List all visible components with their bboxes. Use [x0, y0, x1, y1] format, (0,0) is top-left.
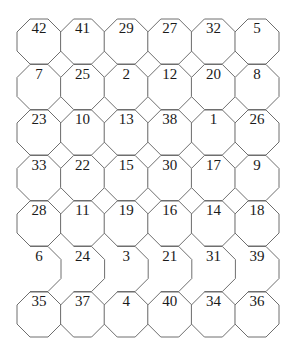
octagon-cell: 39	[248, 247, 279, 292]
octagon-cell: 41	[61, 19, 105, 64]
octagon-cell: 14	[191, 201, 235, 246]
octagon-cell: 29	[104, 19, 148, 64]
octagon-cell: 27	[148, 19, 192, 64]
octagon-cell: 3	[117, 247, 148, 292]
cell-number: 3	[122, 248, 130, 264]
octagon-cell: 4	[104, 292, 148, 337]
octagon-cell: 20	[191, 65, 235, 110]
octagon-cell: 21	[161, 247, 192, 292]
cell-number: 8	[253, 66, 261, 82]
octagon-cell: 10	[61, 110, 105, 155]
octagon-cell: 33	[17, 156, 61, 201]
octagon-cell: 1	[191, 110, 235, 155]
octagon-grid: 4241292732572521220823101338126332215301…	[0, 0, 297, 362]
octagon-cell: 34	[191, 292, 235, 337]
cell-number: 12	[162, 66, 177, 82]
octagon-cell: 31	[204, 247, 235, 292]
octagon-cell: 8	[235, 65, 279, 110]
octagon-cell: 2	[104, 65, 148, 110]
octagon-cell: 12	[148, 65, 192, 110]
cell-number: 5	[253, 20, 261, 36]
cell-number: 6	[35, 248, 43, 264]
cell-number: 22	[75, 157, 90, 173]
octagon-cell: 42	[17, 19, 61, 64]
cell-number: 34	[206, 293, 222, 309]
cell-number: 14	[206, 202, 222, 218]
cell-number: 4	[122, 293, 130, 309]
octagon-cell: 36	[235, 292, 279, 337]
cell-number: 30	[162, 157, 177, 173]
cell-number: 21	[162, 248, 177, 264]
cell-number: 40	[162, 293, 177, 309]
octagon-cell: 37	[61, 292, 105, 337]
octagon-cell: 25	[61, 65, 105, 110]
octagon-cell: 28	[17, 201, 61, 246]
octagon-cell: 9	[235, 156, 279, 201]
octagon-cell: 16	[148, 201, 192, 246]
cell-number: 42	[32, 20, 47, 36]
octagon-cell: 17	[191, 156, 235, 201]
octagon-cell: 22	[61, 156, 105, 201]
cell-number: 28	[32, 202, 47, 218]
cell-number: 41	[75, 20, 90, 36]
octagon-cell: 7	[17, 65, 61, 110]
cell-number: 15	[119, 157, 134, 173]
cell-number: 18	[250, 202, 265, 218]
cell-number: 9	[253, 157, 261, 173]
cell-number: 16	[162, 202, 178, 218]
cell-number: 26	[250, 111, 266, 127]
cell-number: 35	[32, 293, 47, 309]
cell-number: 39	[250, 248, 265, 264]
octagon-cell: 15	[104, 156, 148, 201]
cell-number: 19	[119, 202, 134, 218]
cell-number: 7	[35, 66, 43, 82]
octagon-cell: 30	[148, 156, 192, 201]
octagon-cell: 40	[148, 292, 192, 337]
octagon-cell: 35	[17, 292, 61, 337]
octagon-grid-canvas: 4241292732572521220823101338126332215301…	[0, 0, 297, 362]
octagon-cell: 5	[235, 19, 279, 64]
cell-number: 33	[32, 157, 47, 173]
cell-number: 37	[75, 293, 91, 309]
cell-number: 23	[32, 111, 47, 127]
cell-number: 36	[250, 293, 266, 309]
octagon-cell: 38	[148, 110, 192, 155]
cell-number: 25	[75, 66, 90, 82]
octagon-cell: 13	[104, 110, 148, 155]
cell-number: 32	[206, 20, 221, 36]
octagon-cell: 19	[104, 201, 148, 246]
cell-number: 31	[206, 248, 221, 264]
cell-number: 24	[75, 248, 91, 264]
cell-number: 20	[206, 66, 221, 82]
octagon-cell: 32	[191, 19, 235, 64]
octagon-cell: 18	[235, 201, 279, 246]
cell-number: 17	[206, 157, 222, 173]
cell-number: 29	[119, 20, 134, 36]
octagon-cell: 6	[30, 247, 61, 292]
cell-number: 10	[75, 111, 90, 127]
octagon-cell: 24	[74, 247, 105, 292]
octagon-cell: 26	[235, 110, 279, 155]
cell-number: 2	[122, 66, 130, 82]
octagon-cell: 11	[61, 201, 105, 246]
cell-number: 13	[119, 111, 134, 127]
cell-number: 11	[75, 202, 89, 218]
octagon-cell: 23	[17, 110, 61, 155]
cell-number: 38	[162, 111, 177, 127]
cell-number: 1	[210, 111, 218, 127]
cell-number: 27	[162, 20, 178, 36]
